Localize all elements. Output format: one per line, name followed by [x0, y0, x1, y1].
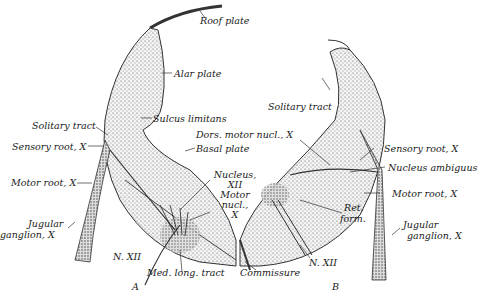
- label-alar-plate: Alar plate: [174, 69, 221, 79]
- label-sensory-root-a: Sensory root, X: [12, 142, 86, 152]
- label-basal-plate: Basal plate: [196, 144, 249, 154]
- label-dors-motor-nucl: Dors. motor nucl., X: [196, 130, 293, 140]
- label-panel-b: B: [332, 282, 339, 292]
- label-panel-a: A: [132, 282, 139, 292]
- label-sulcus-limitans: Sulcus limitans: [153, 114, 227, 124]
- label-ret-form-2: form.: [340, 214, 366, 224]
- label-sensory-root-b: Sensory root, X: [384, 144, 458, 154]
- label-motor-root-a: Motor root, X: [11, 178, 76, 188]
- label-n-xii-a: N. XII: [113, 252, 141, 262]
- label-jugular-a-2: ganglion, X: [0, 230, 55, 240]
- label-jugular-a-1: Jugular: [28, 219, 63, 229]
- label-ret-form-1: Ret.: [344, 203, 364, 213]
- label-jugular-b-2: ganglion, X: [407, 231, 462, 241]
- label-commissure: Commissure: [240, 268, 300, 278]
- label-n-xii-b: N. XII: [309, 258, 337, 268]
- label-nucleus-ambiguus: Nucleus ambiguus: [388, 163, 477, 173]
- embryology-diagram: Roof plate Alar plate Sulcus limitans So…: [0, 0, 478, 292]
- label-med-long-tract: Med. long. tract: [147, 268, 225, 278]
- label-solitary-tract-b: Solitary tract: [268, 102, 332, 112]
- label-solitary-tract-a: Solitary tract: [32, 121, 96, 131]
- label-roof-plate: Roof plate: [200, 16, 249, 26]
- label-motor-nucl-3: X: [212, 210, 258, 220]
- label-jugular-b-1: Jugular: [403, 220, 438, 230]
- label-motor-root-b: Motor root, X: [392, 189, 457, 199]
